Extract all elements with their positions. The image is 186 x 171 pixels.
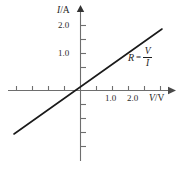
iv-line: [14, 29, 162, 134]
y-tick-label-1.0: 1.0: [58, 49, 69, 58]
x-tick-label-2.0: 2.0: [127, 94, 138, 103]
iv-characteristic-figure: I/A V/V 2.0 1.0 1.0 2.0 R = V I: [0, 0, 186, 171]
x-tick-label-1.0: 1.0: [105, 94, 116, 103]
equation-numerator: V: [144, 47, 152, 57]
equation-denominator: I: [145, 59, 150, 69]
equation-equals-sign: =: [136, 53, 141, 62]
equation-lhs: R: [128, 53, 134, 63]
y-axis-unit: A: [63, 5, 70, 15]
x-axis-arrowhead: [168, 87, 176, 94]
y-axis-arrowhead: [77, 5, 84, 12]
plot-canvas: [0, 0, 186, 171]
resistance-equation: R = V I: [128, 47, 152, 69]
y-tick-label-2.0: 2.0: [58, 21, 69, 30]
equation-fraction: V I: [143, 47, 152, 69]
y-axis-label: I/A: [57, 6, 70, 16]
x-axis-unit: V: [157, 93, 164, 103]
x-axis-label: V/V: [149, 94, 164, 104]
x-axis-ticks: [17, 86, 161, 91]
